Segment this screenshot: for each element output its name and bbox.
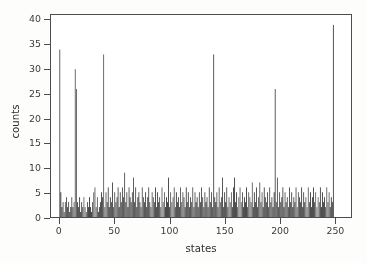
y-tick-label: 10 xyxy=(11,163,41,172)
figure: 0510152025303540 050100150200250 states … xyxy=(0,0,367,263)
x-tick-label: 100 xyxy=(150,226,190,235)
y-tick-label: 35 xyxy=(11,39,41,48)
x-tick-mark xyxy=(59,218,60,224)
x-tick-mark xyxy=(114,218,115,224)
x-tick-label: 50 xyxy=(94,226,134,235)
y-tick-mark xyxy=(44,94,50,95)
y-tick-mark xyxy=(44,168,50,169)
plot-area xyxy=(50,14,352,218)
x-tick-mark xyxy=(280,218,281,224)
y-tick-mark xyxy=(44,44,50,45)
x-axis-title: states xyxy=(50,243,352,254)
x-tick-mark xyxy=(225,218,226,224)
x-tick-mark xyxy=(335,218,336,224)
y-tick-label: 40 xyxy=(11,14,41,23)
y-tick-label: 5 xyxy=(11,188,41,197)
y-tick-mark xyxy=(44,193,50,194)
x-tick-label: 150 xyxy=(205,226,245,235)
x-tick-label: 250 xyxy=(315,226,355,235)
x-tick-label: 200 xyxy=(260,226,300,235)
x-tick-label: 0 xyxy=(39,226,79,235)
y-tick-mark xyxy=(44,19,50,20)
y-tick-label: 30 xyxy=(11,64,41,73)
y-tick-mark xyxy=(44,119,50,120)
y-tick-mark xyxy=(44,218,50,219)
y-axis-title: counts xyxy=(10,92,21,152)
y-tick-mark xyxy=(44,69,50,70)
y-tick-label: 0 xyxy=(11,213,41,222)
bar-series-canvas xyxy=(51,15,351,217)
x-tick-mark xyxy=(170,218,171,224)
y-tick-mark xyxy=(44,143,50,144)
